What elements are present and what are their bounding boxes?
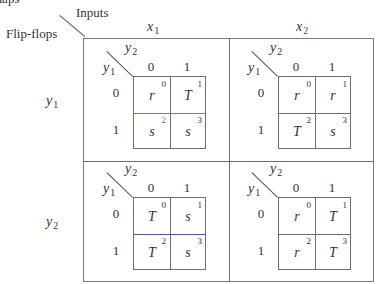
- kmap-y2-x1: y2 y1 0 1 0 1 T0 s1 T2 s3: [83, 159, 229, 281]
- kmap-row-1: 1: [254, 122, 268, 138]
- kmap-row-var: y1: [103, 181, 115, 198]
- kmap-cell: s3: [170, 113, 206, 149]
- kmap-cell: r0: [134, 77, 170, 113]
- kmap-cell: T1: [315, 198, 351, 234]
- row-header-y2: y2: [46, 214, 58, 231]
- kmap-row-0: 0: [254, 206, 268, 222]
- kmap-cell: T3: [315, 234, 351, 270]
- column-header-x2: x2: [296, 19, 308, 36]
- kmap-col-0: 0: [133, 59, 169, 75]
- kmap-row-0: 0: [109, 85, 123, 101]
- kmap-grid: T0 s1 T2 s3: [133, 197, 206, 270]
- kmap-col-1: 1: [314, 180, 350, 196]
- title-fragment: maps: [0, 0, 19, 7]
- kmap-y1-x1: y2 y1 0 1 0 1 r0 T1 s2 s3: [83, 38, 229, 160]
- kmap-row-var: y1: [248, 181, 260, 198]
- kmap-y2-x2: y2 y1 0 1 0 1 r0 T1 r2 T3: [228, 159, 374, 281]
- kmap-y1-x2: y2 y1 0 1 0 1 r0 r1 T2 s3: [228, 38, 374, 160]
- column-header-x1: x1: [147, 19, 159, 36]
- kmap-grid: r0 T1 s2 s3: [133, 76, 206, 149]
- kmap-row-var: y1: [103, 60, 115, 77]
- kmap-col-var: y2: [125, 40, 137, 57]
- kmap-col-1: 1: [314, 59, 350, 75]
- kmap-cell: T1: [170, 77, 206, 113]
- kmap-cell: T2: [279, 113, 315, 149]
- kmap-cell: s3: [315, 113, 351, 149]
- kmap-row-0: 0: [109, 206, 123, 222]
- kmap-cell: T0: [134, 198, 170, 234]
- kmap-col-1: 1: [169, 59, 205, 75]
- kmap-row-var: y1: [248, 60, 260, 77]
- kmap-row-1: 1: [109, 243, 123, 259]
- row-header-y1: y1: [46, 93, 58, 110]
- kmap-cell: r0: [279, 198, 315, 234]
- kmap-col-0: 0: [278, 59, 314, 75]
- kmap-cell: r2: [279, 234, 315, 270]
- kmap-cell: r1: [315, 77, 351, 113]
- kmap-row-1: 1: [254, 243, 268, 259]
- kmap-col-var: y2: [270, 40, 282, 57]
- inputs-label: Inputs: [76, 5, 109, 21]
- kmap-cell: T2: [134, 234, 170, 270]
- kmap-col-var: y2: [270, 161, 282, 178]
- kmap-cell: s1: [170, 198, 206, 234]
- kmap-grid: r0 T1 r2 T3: [278, 197, 351, 270]
- kmap-cell: s2: [134, 113, 170, 149]
- kmap-row-0: 0: [254, 85, 268, 101]
- kmap-col-var: y2: [125, 161, 137, 178]
- kmap-col-0: 0: [278, 180, 314, 196]
- kmap-cell: r0: [279, 77, 315, 113]
- kmap-col-1: 1: [169, 180, 205, 196]
- flipflops-label: Flip-flops: [6, 26, 57, 42]
- kmap-cell: s3: [170, 234, 206, 270]
- kmap-row-1: 1: [109, 122, 123, 138]
- kmap-col-0: 0: [133, 180, 169, 196]
- kmap-grid: r0 r1 T2 s3: [278, 76, 351, 149]
